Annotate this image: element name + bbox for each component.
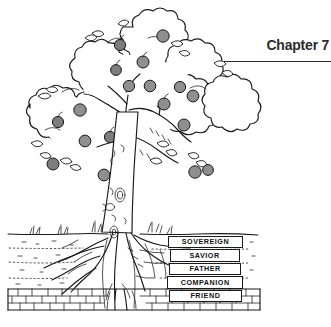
page-root: Chapter 7 .ln { fill:none; stroke:#1a1a1… xyxy=(0,0,331,327)
grass-group xyxy=(30,221,172,234)
root-label-companion: COMPANION xyxy=(167,276,243,288)
root-label-father: FATHER xyxy=(169,263,241,275)
root-label-savior: SAVIOR xyxy=(170,249,240,261)
root-label-sovereign-text: SOVEREIGN xyxy=(182,238,229,246)
root-label-sovereign: SOVEREIGN xyxy=(168,236,243,248)
root-label-father-text: FATHER xyxy=(189,265,220,273)
root-labels-stack: SOVEREIGN SAVIOR FATHER COMPANION FRIEND xyxy=(167,236,245,303)
root-label-savior-text: SAVIOR xyxy=(190,252,220,260)
ground-line-group xyxy=(8,234,258,236)
root-label-friend-text: FRIEND xyxy=(191,292,221,300)
root-label-companion-text: COMPANION xyxy=(181,279,230,287)
canopy-group xyxy=(27,8,262,153)
tree-illustration: .ln { fill:none; stroke:#1a1a1a; stroke-… xyxy=(0,0,331,327)
root-label-friend: FRIEND xyxy=(169,290,242,302)
